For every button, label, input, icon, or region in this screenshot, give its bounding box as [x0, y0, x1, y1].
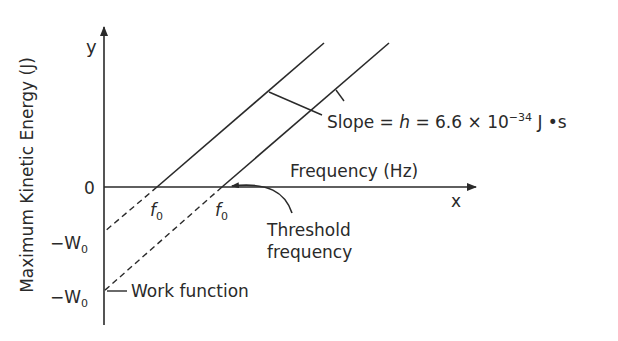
work-function-label: Work function [131, 283, 249, 300]
y-tick-neg-w0-2: −W0 [50, 289, 88, 309]
y-tick-neg-w0-1: −W0 [50, 235, 88, 255]
x-tick-f0-2: f0 [215, 202, 228, 222]
y-axis-letter: y [86, 38, 97, 56]
slope-leader [269, 92, 322, 115]
line-2-dashed [104, 187, 222, 291]
x-axis-title: Frequency (Hz) [290, 163, 418, 180]
x-tick-f0-1: f0 [150, 202, 163, 222]
y-tick-zero: 0 [84, 180, 95, 197]
threshold-arrow [232, 185, 292, 213]
y-axis-title: Maximum Kinetic Energy (J) [17, 50, 37, 300]
slope-tick [336, 90, 344, 101]
slope-annotation: Slope = h = 6.6 × 10−34 J •s [327, 112, 567, 131]
x-axis-letter: x [451, 193, 461, 210]
threshold-frequency-label: Thresholdfrequency [267, 219, 352, 263]
